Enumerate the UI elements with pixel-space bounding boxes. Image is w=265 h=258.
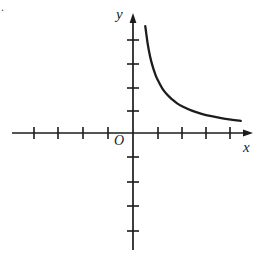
hyperbola-figure: y x O . bbox=[0, 0, 265, 258]
origin-label: O bbox=[114, 134, 124, 148]
hyperbola-curve bbox=[145, 26, 241, 121]
y-axis-label: y bbox=[116, 7, 123, 22]
x-axis-arrowhead bbox=[243, 130, 253, 137]
y-axis-arrowhead bbox=[130, 13, 137, 23]
x-axis-label: x bbox=[243, 140, 250, 155]
coordinate-plot bbox=[0, 0, 265, 258]
corner-item-mark: . bbox=[1, 1, 11, 15]
